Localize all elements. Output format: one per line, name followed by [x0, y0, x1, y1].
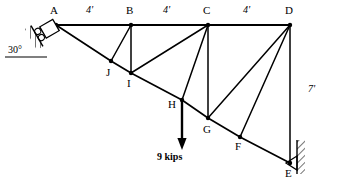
dimension-label-height-DE: 7'	[308, 84, 315, 94]
member-A-J	[56, 25, 111, 61]
member-F-E	[240, 137, 290, 163]
dimension-label-span-AB: 4'	[86, 5, 93, 15]
node-label-F: F	[235, 141, 241, 152]
load-arrow-head	[177, 138, 186, 150]
joint-I	[129, 71, 133, 75]
truss-members	[56, 25, 290, 163]
member-G-F	[208, 118, 240, 137]
node-label-C: C	[203, 5, 210, 16]
roller-support-A	[25, 15, 62, 50]
node-label-E: E	[285, 168, 292, 179]
joint-B	[129, 23, 133, 27]
load-label: 9 kips	[157, 152, 182, 162]
dimension-label-span-CD: 4'	[243, 5, 250, 15]
node-label-G: G	[203, 124, 211, 135]
member-D-F	[240, 25, 290, 137]
node-label-D: D	[285, 5, 293, 16]
member-I-H	[131, 73, 182, 100]
joint-J	[109, 59, 113, 63]
node-label-B: B	[126, 5, 133, 16]
support-angle-label: 30°	[8, 45, 22, 55]
member-C-H	[182, 25, 208, 100]
member-J-I	[111, 61, 131, 73]
member-H-G	[182, 100, 208, 118]
node-label-J: J	[106, 67, 110, 78]
joint-D	[288, 23, 292, 27]
dimension-label-span-BC: 4'	[163, 5, 170, 15]
truss-diagram: A B C D E F G H I J 4' 4' 4' 7' 30° 9 ki…	[0, 0, 346, 195]
node-label-H: H	[168, 99, 176, 110]
load-arrow-H	[177, 100, 186, 150]
node-label-A: A	[50, 5, 58, 16]
joint-G	[206, 116, 210, 120]
member-D-G	[208, 25, 290, 118]
wall-support-hatch	[297, 140, 305, 174]
joint-C	[206, 23, 210, 27]
truss-joints	[54, 23, 292, 165]
joint-F	[238, 135, 242, 139]
member-B-J	[111, 25, 131, 61]
member-C-I	[131, 25, 208, 73]
node-label-I: I	[127, 78, 131, 89]
